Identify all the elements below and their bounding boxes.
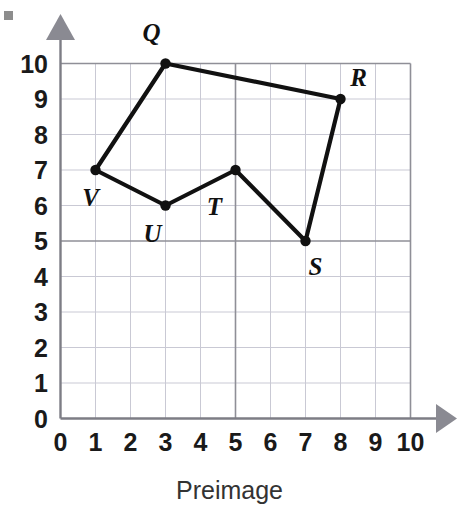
vertex-label-S: S bbox=[309, 254, 323, 279]
x-tick-label-1: 1 bbox=[89, 430, 103, 455]
coordinate-graph-figure: 012345678910012345678910 QRSTUV Preimage bbox=[0, 0, 459, 518]
x-tick-label-6: 6 bbox=[264, 430, 278, 455]
vertex-label-T: T bbox=[207, 194, 222, 219]
y-tick-label-1: 1 bbox=[34, 371, 48, 396]
y-tick-label-3: 3 bbox=[34, 300, 48, 325]
y-tick-label-8: 8 bbox=[34, 122, 48, 147]
x-tick-label-9: 9 bbox=[369, 430, 383, 455]
x-tick-label-7: 7 bbox=[299, 430, 313, 455]
vertex-dot-V bbox=[90, 165, 100, 175]
y-tick-label-7: 7 bbox=[34, 158, 48, 183]
vertex-dot-R bbox=[335, 94, 345, 104]
axis-lines bbox=[61, 36, 437, 419]
y-tick-label-4: 4 bbox=[34, 264, 48, 289]
vertex-dot-S bbox=[300, 236, 310, 246]
x-tick-label-3: 3 bbox=[159, 430, 173, 455]
x-axis-caption: Preimage bbox=[0, 476, 459, 505]
y-tick-label-0: 0 bbox=[34, 406, 48, 431]
x-tick-label-8: 8 bbox=[334, 430, 348, 455]
y-tick-label-6: 6 bbox=[34, 193, 48, 218]
grid-major-lines bbox=[61, 64, 411, 419]
x-tick-label-5: 5 bbox=[229, 430, 243, 455]
vertex-dot-T bbox=[230, 165, 240, 175]
vertex-dot-Q bbox=[160, 58, 170, 68]
vertex-label-R: R bbox=[350, 65, 367, 90]
y-tick-label-5: 5 bbox=[34, 229, 48, 254]
x-tick-label-2: 2 bbox=[124, 430, 138, 455]
y-tick-label-9: 9 bbox=[34, 87, 48, 112]
vertex-label-Q: Q bbox=[142, 19, 160, 44]
y-tick-label-2: 2 bbox=[34, 335, 48, 360]
x-tick-label-4: 4 bbox=[194, 430, 208, 455]
vertex-label-V: V bbox=[82, 185, 99, 210]
y-tick-label-10: 10 bbox=[20, 51, 48, 76]
x-tick-label-0: 0 bbox=[54, 430, 68, 455]
vertex-dot-U bbox=[160, 200, 170, 210]
y-axis-arrow-icon bbox=[46, 14, 75, 40]
x-axis-arrow-icon bbox=[436, 404, 457, 433]
axis-arrows bbox=[46, 14, 457, 433]
vertex-label-U: U bbox=[143, 220, 161, 245]
x-tick-label-10: 10 bbox=[397, 430, 425, 455]
